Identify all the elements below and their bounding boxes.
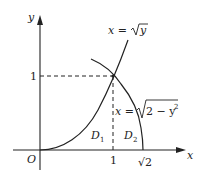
svg-text:x =: x = (115, 105, 134, 118)
svg-text:D: D (90, 129, 100, 142)
svg-text:2 − y: 2 − y (146, 105, 176, 118)
y-axis-label: y (27, 11, 35, 24)
svg-text:y: y (139, 24, 147, 37)
svg-text:2: 2 (174, 103, 178, 111)
region-d1-label: D 1 (90, 129, 104, 144)
x-axis-arrow-icon (176, 147, 186, 153)
y-tick-1: 1 (30, 70, 37, 83)
svg-text:D: D (123, 129, 133, 142)
diagram-canvas: y x O 1 1 √2 x = y x = 2 − y 2 D 1 D 2 (0, 0, 202, 180)
x-axis-label: x (187, 149, 194, 162)
y-axis-arrow-icon (37, 15, 43, 25)
parabola-curve (40, 40, 128, 150)
origin-label: O (27, 153, 36, 166)
intersection-point (111, 74, 114, 77)
x-tick-sqrt2: √2 (138, 156, 152, 169)
svg-text:x =: x = (108, 24, 127, 37)
parabola-equation-label: x = y (108, 24, 148, 37)
region-d2-label: D 2 (123, 129, 137, 144)
svg-text:2: 2 (133, 136, 137, 144)
x-tick-1: 1 (110, 154, 117, 167)
svg-text:1: 1 (100, 136, 104, 144)
arc-equation-label: x = 2 − y 2 (115, 100, 178, 118)
